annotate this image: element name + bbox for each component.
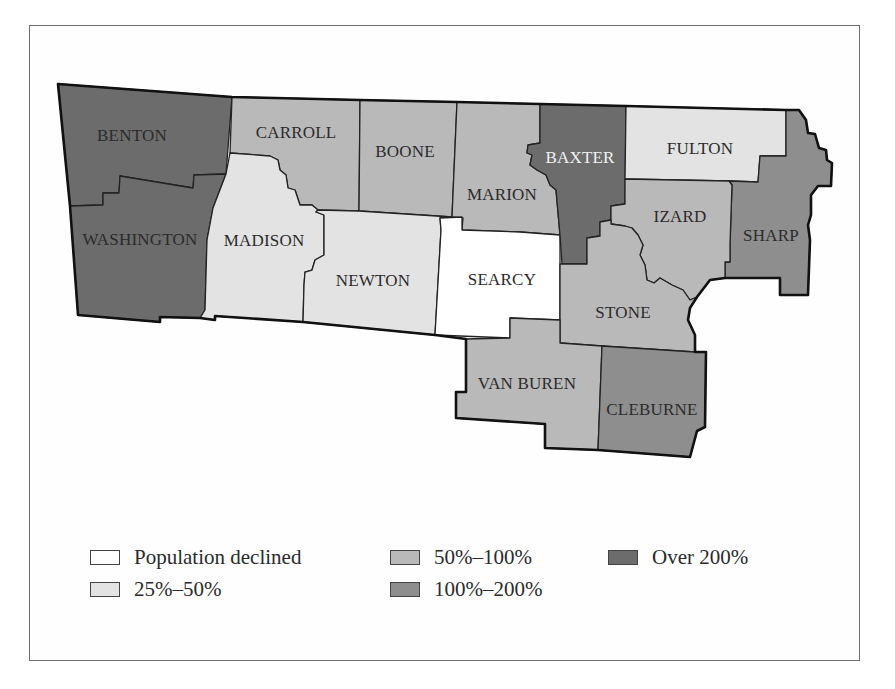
label-benton: BENTON bbox=[97, 126, 167, 145]
swatch-50-100 bbox=[390, 550, 420, 565]
legend-label: Over 200% bbox=[652, 545, 748, 570]
label-van-buren: VAN BUREN bbox=[478, 374, 576, 393]
label-marion: MARION bbox=[467, 185, 537, 204]
label-baxter: BAXTER bbox=[545, 148, 615, 167]
legend-label: 25%–50% bbox=[134, 577, 222, 602]
label-fulton: FULTON bbox=[667, 139, 733, 158]
swatch-25-50 bbox=[90, 582, 120, 597]
legend: Population declined 25%–50% 50%–100% 100… bbox=[90, 545, 810, 605]
swatch-over-200 bbox=[608, 550, 638, 565]
label-izard: IZARD bbox=[654, 207, 707, 226]
legend-label: 100%–200% bbox=[434, 577, 543, 602]
swatch-100-200 bbox=[390, 582, 420, 597]
label-madison: MADISON bbox=[224, 231, 305, 250]
legend-label: Population declined bbox=[134, 545, 301, 570]
legend-item-declined: Population declined bbox=[90, 545, 301, 569]
label-searcy: SEARCY bbox=[468, 270, 536, 289]
label-boone: BOONE bbox=[375, 142, 435, 161]
legend-item-100-200: 100%–200% bbox=[390, 577, 543, 601]
legend-item-50-100: 50%–100% bbox=[390, 545, 532, 569]
legend-label: 50%–100% bbox=[434, 545, 532, 570]
label-stone: STONE bbox=[595, 303, 650, 322]
legend-item-over-200: Over 200% bbox=[608, 545, 748, 569]
swatch-declined bbox=[90, 550, 120, 565]
label-sharp: SHARP bbox=[743, 226, 799, 245]
label-carroll: CARROLL bbox=[256, 123, 337, 142]
label-cleburne: CLEBURNE bbox=[606, 400, 697, 419]
label-washington: WASHINGTON bbox=[82, 230, 197, 249]
label-newton: NEWTON bbox=[336, 271, 411, 290]
legend-item-25-50: 25%–50% bbox=[90, 577, 222, 601]
